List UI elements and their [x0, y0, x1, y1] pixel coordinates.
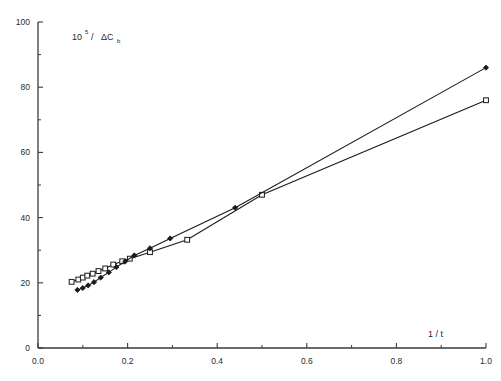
- data-point-open-square: [69, 279, 74, 284]
- y-axis-title-base: 10: [72, 32, 82, 42]
- chart-root: 020406080100 0.00.20.40.60.81.0 10 5 / Δ…: [0, 0, 501, 381]
- x-tick-label: 1.0: [480, 356, 492, 366]
- y-tick-label: 20: [21, 278, 31, 288]
- x-tick-label: 0.4: [211, 356, 223, 366]
- data-point-open-square: [484, 98, 489, 103]
- chart-background: [0, 0, 501, 381]
- data-point-open-square: [185, 237, 190, 242]
- x-tick-label: 0.2: [122, 356, 134, 366]
- x-tick-label: 0.8: [390, 356, 402, 366]
- x-tick-label: 0.6: [301, 356, 313, 366]
- y-tick-label: 0: [25, 343, 30, 353]
- chart-canvas: 020406080100 0.00.20.40.60.81.0 10 5 / Δ…: [0, 0, 501, 381]
- y-tick-label: 60: [21, 147, 31, 157]
- data-point-open-square: [96, 269, 101, 274]
- x-axis-title: 1 / t: [428, 329, 444, 339]
- x-tick-label: 0.0: [32, 356, 44, 366]
- y-axis-title-delta-c: ΔC: [101, 32, 114, 42]
- data-point-open-square: [85, 273, 90, 278]
- y-tick-label: 40: [21, 213, 31, 223]
- y-tick-label: 100: [16, 17, 30, 27]
- data-point-open-square: [90, 271, 95, 276]
- y-tick-label: 80: [21, 82, 31, 92]
- data-point-open-square: [103, 266, 108, 271]
